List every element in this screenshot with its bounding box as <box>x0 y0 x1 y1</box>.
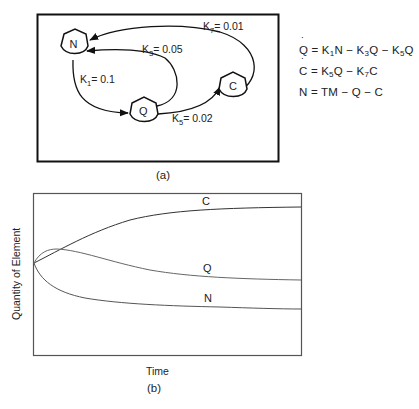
node-n-label: N <box>70 38 78 50</box>
panel-b-label: (b) <box>147 382 161 394</box>
edge-q-to-c <box>158 87 220 114</box>
equation-q-dot: Q = K1N − K3Q − K5Q <box>299 44 414 58</box>
series-label-q: Q <box>203 262 212 274</box>
node-n: N <box>61 29 88 54</box>
edge-label-k1: K1= 0.1 <box>80 73 115 88</box>
node-q-label: Q <box>139 105 148 117</box>
node-c: C <box>219 72 247 97</box>
edge-label-k5: K5= 0.02 <box>172 112 213 127</box>
y-axis-label: Quantity of Element <box>10 228 22 320</box>
x-axis-label: Time <box>146 365 169 377</box>
series-label-c: C <box>202 195 210 207</box>
panel-a-label: (a) <box>156 169 170 181</box>
curve-q <box>34 249 301 280</box>
chart-frame <box>34 194 302 356</box>
curve-n <box>34 263 301 309</box>
figure-canvas: N Q C K7= 0.01 K3= 0.05 K1= 0.1 K5= 0.02… <box>0 0 419 409</box>
equation-n: N = TM − Q − C <box>299 86 383 98</box>
series-label-n: N <box>204 292 212 304</box>
curve-c <box>34 207 301 263</box>
edge-label-k3: K3= 0.05 <box>142 43 183 58</box>
node-q: Q <box>130 97 158 122</box>
equation-c-dot: C = K5Q − K7C <box>299 65 378 79</box>
node-c-label: C <box>229 80 237 92</box>
edge-n-to-q <box>73 60 128 113</box>
